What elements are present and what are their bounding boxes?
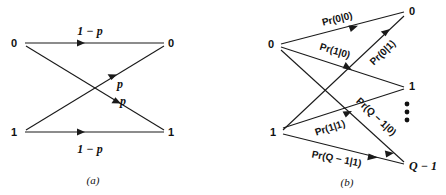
panel-a-edge-label-0-to-0: 1 − p: [77, 24, 102, 38]
arrowhead: [77, 129, 85, 136]
edge-0-to-0-a: [25, 40, 164, 47]
panel-b-output-node-qminus1: Q − 1: [409, 159, 437, 173]
panel-a-input-node-1: 1: [11, 126, 17, 138]
channel-diagram-svg: 0 1 0 1 1 − p 1 − p p p (a): [0, 0, 446, 195]
arrowhead: [343, 111, 352, 118]
panel-a-output-node-1: 1: [168, 126, 174, 138]
arrowhead: [349, 26, 359, 32]
arrowhead: [77, 40, 85, 47]
panel-b-input-node-0: 0: [268, 38, 274, 50]
panel-b-edge-label-1-to-0: Pr(0|1): [368, 38, 398, 68]
panel-b-input-node-1: 1: [270, 126, 276, 138]
panel-b-edge-label-0-to-0: Pr(0|0): [321, 9, 354, 27]
panel-b-edge-label-0-to-1: Pr(1|0): [319, 41, 352, 61]
vertical-ellipsis-icon: [405, 102, 410, 123]
arrowhead: [381, 29, 390, 36]
panel-a: 0 1 0 1 1 − p 1 − p p p (a): [11, 24, 174, 187]
panel-b-caption: (b): [341, 176, 354, 189]
panel-b-edge-label-1-to-1: Pr(1|1): [313, 118, 346, 138]
panel-a-caption: (a): [87, 174, 100, 187]
panel-b-output-node-1: 1: [409, 80, 415, 92]
panel-a-output-node-0: 0: [168, 37, 174, 49]
edge-1-to-1-a: [25, 129, 164, 136]
panel-a-input-node-0: 0: [11, 37, 17, 49]
panel-b-output-node-0: 0: [409, 5, 415, 17]
panel-b-edge-label-0-to-qminus1: Pr(Q − 1|0): [354, 95, 398, 137]
panel-a-edge-label-0-to-1: p: [119, 94, 126, 108]
figure-root: 0 1 0 1 1 − p 1 − p p p (a): [0, 0, 446, 195]
panel-a-edge-label-1-to-1: 1 − p: [77, 142, 102, 156]
panel-b: 0 1 0 1 Q − 1 Pr(0|0) Pr(1|0) Pr(0|1) Pr…: [268, 5, 437, 189]
panel-a-edge-label-1-to-0: p: [116, 77, 123, 91]
arrowhead: [367, 154, 378, 161]
